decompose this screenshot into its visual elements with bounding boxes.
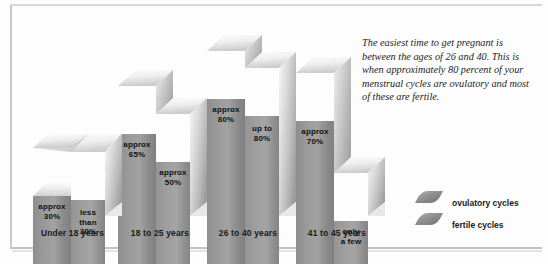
bar-value-label: less than 30% bbox=[71, 208, 105, 237]
axis-label-group-1: 18 to 25 years bbox=[110, 228, 210, 238]
label-line-2: 70% bbox=[307, 137, 323, 146]
bar-fertile-under-18: less than 30% bbox=[71, 200, 105, 264]
bar-value-label: up to 80% bbox=[245, 124, 279, 143]
legend-label: ovulatory cycles bbox=[452, 198, 519, 208]
bar-top-face bbox=[33, 183, 71, 196]
bar-value-label: only a few bbox=[334, 227, 368, 246]
chart-root: approx 30% less than 30% bbox=[0, 0, 548, 264]
label-line-1: only bbox=[343, 227, 360, 236]
label-line-2: 80% bbox=[254, 134, 270, 143]
bar-fertile-18-25: approx 50% bbox=[156, 162, 190, 264]
label-line-2: than bbox=[79, 218, 96, 227]
label-line-1: less bbox=[80, 208, 96, 217]
group-1-3d-top bbox=[33, 135, 119, 165]
ribbon-swatch-icon bbox=[414, 190, 444, 206]
label-line-2: a few bbox=[341, 237, 362, 246]
label-line-1: approx bbox=[301, 127, 328, 136]
bar-ovulatory-26-40: approx 80% bbox=[207, 99, 245, 264]
legend-label: fertile cycles bbox=[452, 220, 504, 230]
label-line-1: approx bbox=[123, 140, 150, 149]
ribbon-swatch-icon bbox=[414, 212, 444, 228]
bar-chart-plot: approx 30% less than 30% bbox=[0, 0, 548, 264]
chart-caption: The easiest time to get pregnant is betw… bbox=[362, 36, 532, 104]
bar-value-label: approx 50% bbox=[156, 168, 190, 187]
bar-value-label: approx 70% bbox=[296, 127, 334, 146]
bar-fertile-41-45: only a few bbox=[334, 221, 368, 264]
bar-ovulatory-18-25: approx 65% bbox=[118, 134, 156, 264]
label-line-2: 50% bbox=[165, 178, 181, 187]
label-line-3: 30% bbox=[80, 227, 96, 236]
label-line-1: approx bbox=[38, 202, 65, 211]
label-line-2: 80% bbox=[218, 115, 234, 124]
bar-value-label: approx 80% bbox=[207, 105, 245, 124]
bar-value-label: approx 65% bbox=[118, 140, 156, 159]
bar-fertile-26-40: up to 80% bbox=[245, 116, 279, 264]
label-line-1: approx bbox=[159, 168, 186, 177]
label-line-2: 65% bbox=[129, 150, 145, 159]
axis-label-group-2: 26 to 40 years bbox=[198, 228, 298, 238]
bar-ovulatory-41-45: approx 70% bbox=[296, 121, 334, 264]
bar-value-label: approx 30% bbox=[33, 202, 71, 221]
label-line-1: up to bbox=[252, 124, 272, 133]
label-line-1: approx bbox=[212, 105, 239, 114]
label-line-2: 30% bbox=[44, 212, 60, 221]
